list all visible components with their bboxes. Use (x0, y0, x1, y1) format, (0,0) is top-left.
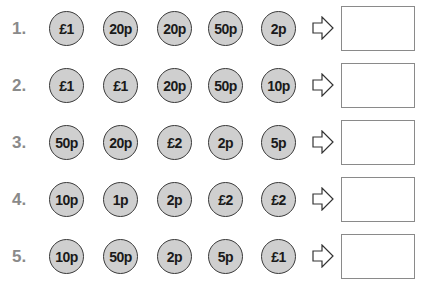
exercise-row-5: 5. 10p 50p 2p 5p £1 (0, 232, 432, 282)
coin: £2 (261, 182, 296, 217)
coin: £1 (261, 239, 296, 274)
coin: 10p (261, 68, 296, 103)
coin: 2p (157, 182, 192, 217)
coin: 5p (208, 239, 243, 274)
exercise-row-3: 3. 50p 20p £2 2p 5p (0, 118, 432, 168)
right-arrow-outline-icon (312, 73, 334, 97)
row-number: 4. (12, 175, 36, 225)
coin: £1 (49, 11, 84, 46)
row-number: 1. (12, 4, 36, 54)
right-arrow-outline-icon (312, 187, 334, 211)
coin: 10p (49, 182, 84, 217)
coin: 20p (157, 68, 192, 103)
coin: 2p (157, 239, 192, 274)
coin: 50p (208, 68, 243, 103)
exercise-row-1: 1. £1 20p 20p 50p 2p (0, 4, 432, 54)
coin: 50p (208, 11, 243, 46)
coin: 50p (103, 239, 138, 274)
coin: 1p (103, 182, 138, 217)
coin: 20p (103, 125, 138, 160)
exercise-row-2: 2. £1 £1 20p 50p 10p (0, 61, 432, 111)
row-number: 2. (12, 61, 36, 111)
row-number: 5. (12, 232, 36, 282)
coin: £1 (103, 68, 138, 103)
answer-box[interactable] (341, 120, 415, 165)
answer-box[interactable] (341, 234, 415, 279)
row-number: 3. (12, 118, 36, 168)
right-arrow-outline-icon (312, 16, 334, 40)
coin: 5p (261, 125, 296, 160)
coin: £2 (157, 125, 192, 160)
coin: 10p (49, 239, 84, 274)
coin: 20p (103, 11, 138, 46)
coin: £1 (49, 68, 84, 103)
coin: 50p (49, 125, 84, 160)
coin: £2 (208, 182, 243, 217)
coin: 2p (208, 125, 243, 160)
answer-box[interactable] (341, 63, 415, 108)
answer-box[interactable] (341, 177, 415, 222)
exercise-row-4: 4. 10p 1p 2p £2 £2 (0, 175, 432, 225)
right-arrow-outline-icon (312, 130, 334, 154)
right-arrow-outline-icon (312, 244, 334, 268)
answer-box[interactable] (341, 6, 415, 51)
coin: 20p (157, 11, 192, 46)
coin: 2p (261, 11, 296, 46)
